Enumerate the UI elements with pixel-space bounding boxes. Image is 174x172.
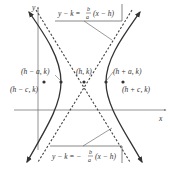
upper-eq-den: a xyxy=(86,14,89,20)
left-focus-point xyxy=(42,80,45,83)
y-axis-label: y xyxy=(31,3,36,12)
lower-asymptote-equation: y − k = − b a (x − h) xyxy=(50,128,122,163)
right-vertex-label: (h + a, k) xyxy=(113,67,142,76)
key-points xyxy=(42,80,124,83)
left-vertex-point xyxy=(59,80,62,83)
upper-eq-rhs: (x − h) xyxy=(93,9,114,18)
asymptote-negative xyxy=(36,10,130,162)
right-vertex-point xyxy=(104,80,107,83)
lower-eq-den: a xyxy=(88,157,91,163)
upper-asymptote-equation: y − k = b a (x − h) xyxy=(55,4,122,40)
lower-eq-num: b xyxy=(89,149,92,155)
left-vertex-label: (h − a, k) xyxy=(21,67,50,76)
asymptote-lines xyxy=(36,10,132,162)
left-focus-label: (h − c, k) xyxy=(10,85,38,94)
right-focus-point xyxy=(121,80,124,83)
upper-eq-lhs: y − k = xyxy=(57,9,80,18)
x-axis: x xyxy=(14,110,166,123)
right-focus-label: (h + c, k) xyxy=(122,85,150,94)
lower-eq-lhs: y − k = − xyxy=(51,152,81,161)
hyperbola-diagram: y x (h, k) (h − a, k) (h + a, k) xyxy=(0,0,174,172)
y-axis: y xyxy=(31,3,38,150)
asymptote-positive xyxy=(38,10,132,162)
center-label: (h, k) xyxy=(76,67,92,76)
upper-eq-num: b xyxy=(87,6,90,12)
lower-eq-rhs: (x − h) xyxy=(95,152,116,161)
center-point xyxy=(82,80,85,83)
x-axis-label: x xyxy=(158,114,163,123)
